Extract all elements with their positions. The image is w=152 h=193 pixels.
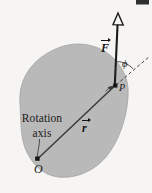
position-vector-overarrow: [82, 118, 90, 122]
force-vector-label-F: F: [101, 38, 110, 54]
origin-label-O: O: [34, 163, 43, 175]
force-vector-overarrow: [101, 38, 110, 42]
force-vector-letter: F: [101, 42, 110, 54]
rotation-axis-label-line1: Rotation: [14, 113, 70, 125]
page-edge-mark: [136, 0, 149, 5]
point-label-P: P: [119, 83, 125, 93]
physics-figure: Rotation axis O P ϕ F r: [0, 0, 152, 193]
point-p-marker: [113, 83, 117, 87]
rotation-axis-label-line2: axis: [14, 128, 70, 140]
angle-label-phi: ϕ: [122, 59, 127, 70]
position-vector-label-r: r: [82, 118, 90, 134]
figure-canvas: [0, 0, 152, 193]
position-vector-letter: r: [82, 122, 90, 134]
force-vector-F-arrowhead: [113, 13, 123, 25]
origin-pivot-marker: [35, 156, 39, 160]
